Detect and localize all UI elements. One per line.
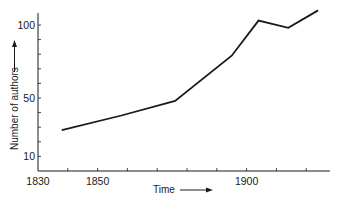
x-tick-label: 1830 <box>26 175 50 187</box>
line-chart: 183018501900 1050100 Time Number of auth… <box>0 0 337 201</box>
x-tick-label: 1900 <box>235 175 259 187</box>
x-tick-label: 1850 <box>86 175 110 187</box>
y-tick-label: 10 <box>23 150 35 162</box>
y-tick-labels: 1050100 <box>17 19 35 162</box>
series-line <box>62 10 318 130</box>
x-axis-title: Time <box>153 184 175 195</box>
y-tick-label: 100 <box>17 19 35 31</box>
y-tick-label: 50 <box>23 92 35 104</box>
axes <box>38 13 330 171</box>
x-axis-arrow-icon <box>180 188 213 193</box>
y-axis-title: Number of authors <box>9 67 20 150</box>
x-tick-labels: 183018501900 <box>26 175 258 187</box>
